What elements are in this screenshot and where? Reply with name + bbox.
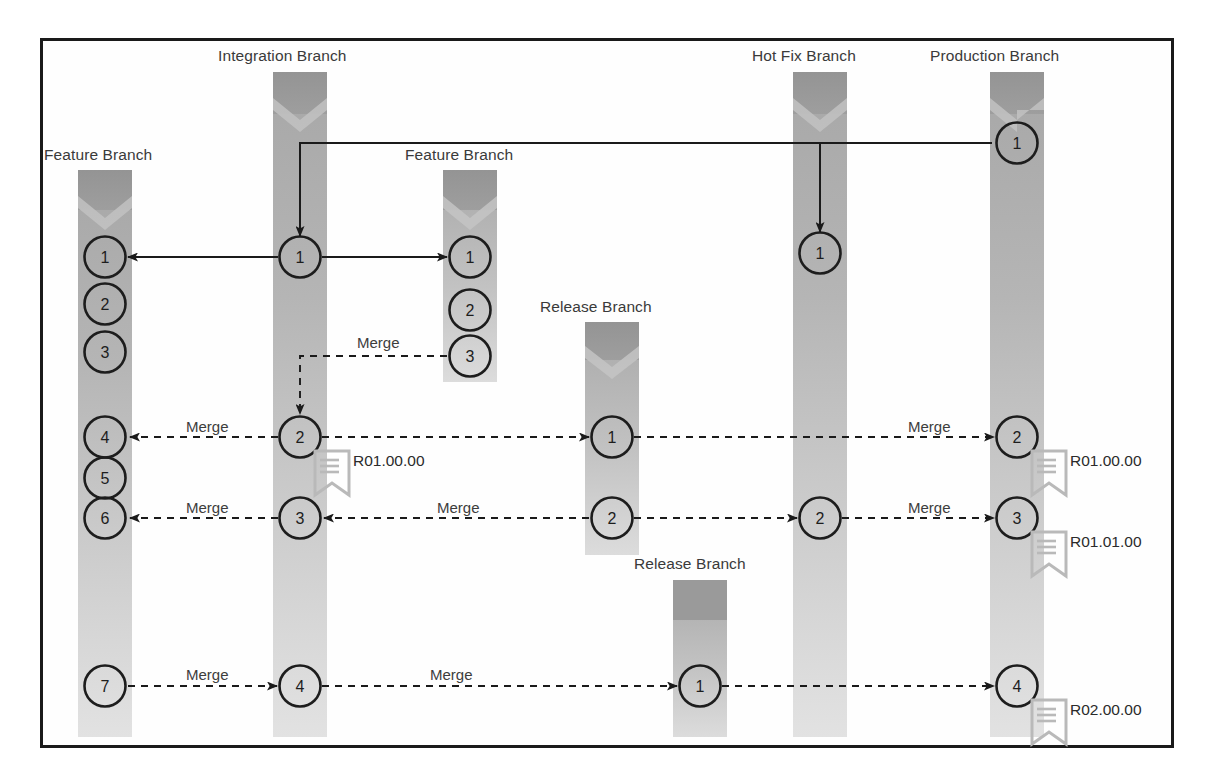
commit-node-label: 3: [101, 344, 110, 361]
commit-node-label: 3: [466, 348, 475, 365]
branch-bars: [78, 72, 1044, 737]
branch-label-integration: Integration Branch: [218, 47, 346, 65]
release-tag-label: R01.00.00: [353, 452, 425, 470]
branch-label-hotfix: Hot Fix Branch: [752, 47, 856, 65]
merge-label: Merge: [437, 499, 480, 516]
commit-node-label: 5: [101, 470, 110, 487]
commit-node-label: 1: [466, 249, 475, 266]
commit-node-label: 1: [696, 678, 705, 695]
merge-label: Merge: [908, 499, 951, 516]
release-tag-label: R01.00.00: [1070, 452, 1142, 470]
diagram-canvas: 12345671234123121121234 Feature BranchIn…: [0, 0, 1207, 780]
commit-node-label: 3: [296, 510, 305, 527]
merge-label: Merge: [908, 418, 951, 435]
branch-off-connectors: [128, 143, 992, 257]
commit-node-label: 1: [816, 245, 825, 262]
commit-node-label: 6: [101, 510, 110, 527]
commit-node-label: 2: [466, 302, 475, 319]
commit-node-label: 7: [101, 678, 110, 695]
commit-node-label: 2: [101, 296, 110, 313]
commit-node-label: 1: [101, 249, 110, 266]
commit-node-label: 1: [296, 249, 305, 266]
commit-node-label: 2: [1013, 429, 1022, 446]
commit-node-label: 2: [296, 429, 305, 446]
branch-label-feature2: Feature Branch: [405, 146, 513, 164]
merge-connectors: [128, 356, 994, 686]
release-tag-label: R02.00.00: [1070, 701, 1142, 719]
commit-node-label: 1: [608, 429, 617, 446]
commit-node-label: 3: [1013, 510, 1022, 527]
branch-label-production: Production Branch: [930, 47, 1059, 65]
merge-label: Merge: [357, 334, 400, 351]
commit-node-label: 2: [816, 510, 825, 527]
merge-label: Merge: [186, 499, 229, 516]
commit-node-label: 4: [101, 429, 110, 446]
branch-label-release2: Release Branch: [634, 555, 746, 573]
branch-label-release1: Release Branch: [540, 298, 652, 316]
branch-bar-production: [990, 72, 1044, 737]
commit-nodes: 12345671234123121121234: [85, 123, 1038, 707]
commit-node-label: 4: [296, 678, 305, 695]
merge-label: Merge: [186, 666, 229, 683]
commit-node-label: 1: [1013, 135, 1022, 152]
commit-node-label: 4: [1013, 678, 1022, 695]
release-tag-label: R01.01.00: [1070, 533, 1142, 551]
merge-label: Merge: [186, 418, 229, 435]
branch-label-feature1: Feature Branch: [44, 146, 152, 164]
commit-node-label: 2: [608, 510, 617, 527]
connector-prod1-to-integration1: [300, 143, 992, 236]
diagram-svg: 12345671234123121121234: [0, 0, 1207, 780]
branch-bar-release2: [673, 580, 727, 737]
merge-label: Merge: [430, 666, 473, 683]
